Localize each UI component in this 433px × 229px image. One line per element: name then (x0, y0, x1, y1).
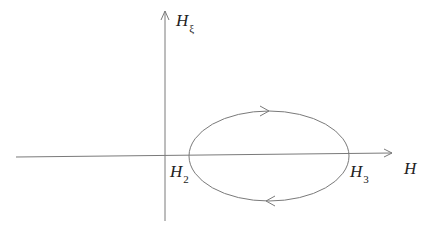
point-h3-base: H (350, 162, 362, 181)
x-axis-label: H (404, 160, 416, 177)
y-axis-label-base: H (176, 11, 188, 30)
y-axis-label-sub: ξ (189, 22, 194, 34)
diagram-canvas (0, 0, 433, 229)
point-h2-base: H (170, 162, 182, 181)
y-axis-label: Hξ (176, 12, 194, 29)
point-h3-sub: 3 (363, 173, 369, 185)
orbit-loop (189, 111, 349, 201)
point-h2-label: H2 (170, 163, 189, 180)
point-h2-sub: 2 (183, 173, 189, 185)
point-h3-label: H3 (350, 163, 369, 180)
x-axis-label-text: H (404, 159, 416, 178)
h-axis (16, 153, 392, 157)
